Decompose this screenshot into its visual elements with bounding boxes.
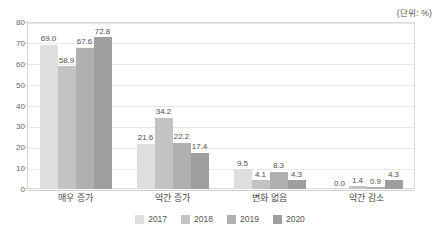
bar-value-label: 72.8 xyxy=(95,27,111,36)
bar[interactable] xyxy=(367,187,385,189)
y-axis-tick-mark xyxy=(25,147,28,148)
bar-value-label: 4.3 xyxy=(388,170,399,179)
legend-item[interactable]: 2019 xyxy=(227,214,259,224)
bar-group: 21.634.222.217.4 xyxy=(124,22,221,189)
bars: 69.058.967.672.8 xyxy=(40,22,112,189)
y-axis-tick-label: 20 xyxy=(1,143,25,152)
y-axis-tick-mark xyxy=(25,168,28,169)
y-axis-tick-mark xyxy=(25,189,28,190)
bar-group: 9.54.18.34.3 xyxy=(221,22,318,189)
legend-label: 2017 xyxy=(148,214,167,224)
y-axis-tick-mark xyxy=(25,126,28,127)
x-axis-labels: 매우 증가약간 증가변화 없음약간 감소 xyxy=(27,191,415,204)
bar-item[interactable]: 1.4 xyxy=(349,22,367,189)
y-axis-tick-mark xyxy=(25,84,28,85)
y-axis-tick-mark xyxy=(25,63,28,64)
bar-item[interactable]: 17.4 xyxy=(191,22,209,189)
unit-note: (단위: %) xyxy=(397,6,432,18)
bar-value-label: 67.6 xyxy=(77,37,93,46)
legend-swatch-icon xyxy=(273,215,282,224)
bar-group: 0.01.40.94.3 xyxy=(318,22,415,189)
x-axis-category-label: 매우 증가 xyxy=(27,191,124,204)
legend: 2017201820192020 xyxy=(0,214,440,224)
bar-value-label: 0.0 xyxy=(334,179,345,188)
bar-chart: (단위: %) 01020304050607080 69.058.967.672… xyxy=(0,0,440,241)
bar-item[interactable]: 4.3 xyxy=(385,22,403,189)
bar-item[interactable]: 58.9 xyxy=(58,22,76,189)
bars: 0.01.40.94.3 xyxy=(331,22,403,189)
bar-item[interactable]: 21.6 xyxy=(137,22,155,189)
bar[interactable] xyxy=(288,180,306,189)
legend-label: 2020 xyxy=(286,214,305,224)
y-axis-tick-mark xyxy=(25,22,28,23)
legend-item[interactable]: 2018 xyxy=(181,214,213,224)
y-axis-tick-mark xyxy=(25,42,28,43)
bar-value-label: 17.4 xyxy=(192,142,208,151)
bar-item[interactable]: 72.8 xyxy=(94,22,112,189)
y-axis-tick-label: 40 xyxy=(1,101,25,110)
x-axis-category-label: 변화 없음 xyxy=(221,191,318,204)
bar-value-label: 4.1 xyxy=(255,170,266,179)
y-axis-tick-label: 60 xyxy=(1,59,25,68)
bar-item[interactable]: 8.3 xyxy=(270,22,288,189)
bar-item[interactable]: 9.5 xyxy=(234,22,252,189)
bar-value-label: 0.9 xyxy=(370,177,381,186)
y-axis-tick-label: 50 xyxy=(1,80,25,89)
bar[interactable] xyxy=(137,144,155,189)
bar-item[interactable]: 34.2 xyxy=(155,22,173,189)
bar[interactable] xyxy=(94,37,112,189)
bar-item[interactable]: 67.6 xyxy=(76,22,94,189)
bar-value-label: 69.0 xyxy=(41,34,57,43)
bar-value-label: 9.5 xyxy=(237,159,248,168)
bar[interactable] xyxy=(252,180,270,189)
legend-label: 2019 xyxy=(240,214,259,224)
bar[interactable] xyxy=(155,118,173,189)
bar-group: 69.058.967.672.8 xyxy=(27,22,124,189)
y-axis-tick-label: 30 xyxy=(1,122,25,131)
bar[interactable] xyxy=(76,48,94,189)
bar-value-label: 21.6 xyxy=(138,133,154,142)
y-axis-tick-mark xyxy=(25,105,28,106)
y-axis-tick-label: 70 xyxy=(1,38,25,47)
bar[interactable] xyxy=(270,172,288,189)
bar-value-label: 58.9 xyxy=(59,56,75,65)
bar-item[interactable]: 0.9 xyxy=(367,22,385,189)
bar-value-label: 1.4 xyxy=(352,176,363,185)
bar-item[interactable]: 0.0 xyxy=(331,22,349,189)
legend-swatch-icon xyxy=(227,215,236,224)
bar[interactable] xyxy=(58,66,76,189)
bar[interactable] xyxy=(234,169,252,189)
x-axis-category-label: 약간 증가 xyxy=(124,191,221,204)
legend-label: 2018 xyxy=(194,214,213,224)
y-axis-tick-label: 0 xyxy=(1,185,25,194)
bar-item[interactable]: 4.3 xyxy=(288,22,306,189)
legend-item[interactable]: 2017 xyxy=(135,214,167,224)
bars: 21.634.222.217.4 xyxy=(137,22,209,189)
bars: 9.54.18.34.3 xyxy=(234,22,306,189)
bar-item[interactable]: 4.1 xyxy=(252,22,270,189)
bar-value-label: 22.2 xyxy=(174,132,190,141)
bar-item[interactable]: 22.2 xyxy=(173,22,191,189)
bar[interactable] xyxy=(173,143,191,189)
legend-swatch-icon xyxy=(181,215,190,224)
bar[interactable] xyxy=(349,186,367,189)
bar[interactable] xyxy=(191,153,209,189)
bar[interactable] xyxy=(385,180,403,189)
bar[interactable] xyxy=(40,45,58,189)
legend-swatch-icon xyxy=(135,215,144,224)
y-axis: 01020304050607080 xyxy=(0,22,25,189)
bar-value-label: 4.3 xyxy=(291,170,302,179)
y-axis-tick-label: 80 xyxy=(1,18,25,27)
y-axis-tick-label: 10 xyxy=(1,164,25,173)
bar-item[interactable]: 69.0 xyxy=(40,22,58,189)
bar-value-label: 34.2 xyxy=(156,107,172,116)
bar-value-label: 8.3 xyxy=(273,161,284,170)
x-axis-category-label: 약간 감소 xyxy=(318,191,415,204)
bar-groups: 69.058.967.672.821.634.222.217.49.54.18.… xyxy=(27,22,415,189)
legend-item[interactable]: 2020 xyxy=(273,214,305,224)
